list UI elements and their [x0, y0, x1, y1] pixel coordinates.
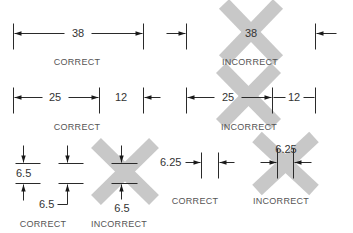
row2-incorrect-value-12: 12: [288, 91, 300, 103]
row3-left-incorrect-label: INCORRECT: [91, 219, 147, 229]
row2-incorrect-label: INCORRECT: [221, 122, 277, 132]
row3-a-value: 6.5: [16, 167, 31, 179]
row2-incorrect-value-25: 25: [222, 91, 234, 103]
row3-left-correct-label: CORRECT: [20, 219, 67, 229]
row3-right-correct-label: CORRECT: [172, 196, 219, 206]
row1-incorrect-value: 38: [245, 27, 257, 39]
row3-right-incorrect-label: INCORRECT: [253, 196, 309, 206]
row2-correct-value-12: 12: [115, 91, 127, 103]
row1-correct-label: CORRECT: [54, 57, 101, 67]
dimensioning-diagram: 38CORRECT38INCORRECT2512CORRECT2512INCOR…: [0, 0, 353, 233]
row2-correct-label: CORRECT: [54, 122, 101, 132]
row3-d-value: 6.25: [160, 156, 181, 168]
row3-b-value: 6.5: [39, 198, 54, 210]
row2-correct-value-25: 25: [49, 91, 61, 103]
row1-incorrect-label: INCORRECT: [222, 57, 278, 67]
row3-c-value: 6.5: [114, 202, 129, 214]
row1-correct-value: 38: [72, 27, 84, 39]
row3-e-value: 6.25: [275, 143, 296, 155]
